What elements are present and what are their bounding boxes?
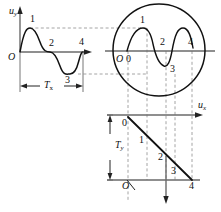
ux-point-4-label: 4 <box>189 181 194 191</box>
vertical-wave-panel <box>17 6 92 92</box>
ty-period-label: Ty <box>115 140 124 152</box>
ux-ramp-line <box>128 117 192 180</box>
ux-point-3-label: 3 <box>171 166 176 176</box>
uy-sine-curve <box>20 28 83 74</box>
uy-point-4-label: 4 <box>79 37 84 47</box>
screen-panel <box>105 4 215 96</box>
ty-top-arrowhead <box>108 115 113 122</box>
screen-origin-label: O <box>116 54 123 64</box>
uy-origin-label: O <box>8 52 15 62</box>
uy-point-2-label: 2 <box>49 38 54 48</box>
tx-left-arrowhead <box>20 84 27 89</box>
screen-point-1-label: 1 <box>140 15 145 25</box>
uy-time-axis-arrow <box>84 49 92 54</box>
uy-axis-label: uy <box>9 6 17 18</box>
uy-axis-arrow <box>17 6 22 14</box>
uy-point-1-label: 1 <box>30 14 35 24</box>
ux-origin-label: O <box>122 181 129 191</box>
screen-point-3-label: 3 <box>170 64 175 74</box>
screen-zero-label: 0 <box>126 54 131 64</box>
tx-period-label: Tx <box>44 80 53 92</box>
screen-point-4-label: 4 <box>188 37 193 47</box>
ux-point-1-label: 1 <box>139 135 144 145</box>
screen-point-2-label: 2 <box>160 37 165 47</box>
ux-axis-label: ux <box>198 100 206 112</box>
uy-point-3-label: 3 <box>65 75 70 85</box>
ty-bottom-arrowhead <box>108 173 113 180</box>
ux-axis-arrow <box>195 112 203 117</box>
ux-point-2-label: 2 <box>158 152 163 162</box>
ux-downward-axis-arrow <box>163 196 168 204</box>
ux-point-0-label: 0 <box>122 118 127 128</box>
tx-right-arrowhead <box>76 84 83 89</box>
screen-inner-sine-curve <box>127 28 193 66</box>
waveform-synthesis-figure <box>0 0 221 212</box>
